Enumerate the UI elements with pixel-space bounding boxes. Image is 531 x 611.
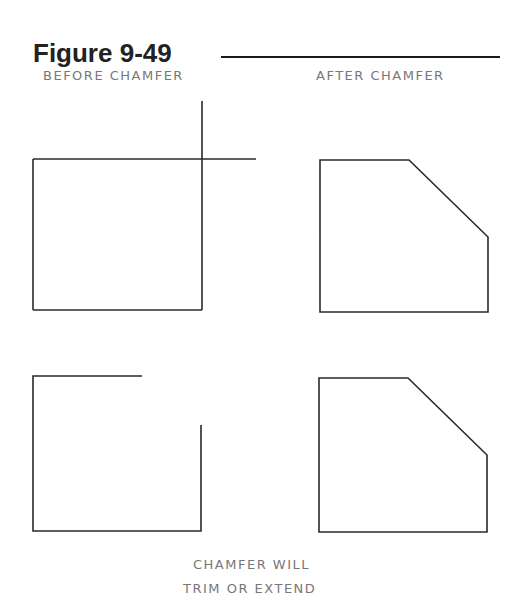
note-line-1: CHAMFER WILL [193, 557, 310, 572]
after-chamfer-shape-top [320, 160, 488, 312]
gapped-outline [33, 376, 201, 531]
after-chamfer-shape-bottom [319, 378, 487, 532]
before-chamfer-overlap-shape [33, 101, 256, 310]
note-line-2: TRIM OR EXTEND [183, 581, 316, 596]
before-chamfer-gap-shape [33, 376, 201, 531]
chamfer-diagram [0, 0, 531, 611]
